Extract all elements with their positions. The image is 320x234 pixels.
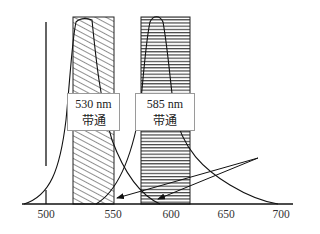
band-585-label: 585 nm 带通 bbox=[135, 93, 195, 131]
band-530-label: 530 nm 带通 bbox=[67, 93, 120, 131]
band-530-wavelength: 530 nm bbox=[68, 96, 119, 113]
tick-label-700: 700 bbox=[272, 208, 289, 220]
tick-label-600: 600 bbox=[162, 208, 179, 220]
band-530-type: 带通 bbox=[68, 113, 119, 130]
tick-label-650: 650 bbox=[217, 208, 234, 220]
band-585-wavelength: 585 nm bbox=[136, 96, 194, 113]
band-585-type: 带通 bbox=[136, 113, 194, 130]
tick-label-500: 500 bbox=[37, 208, 54, 220]
tick-label-550: 550 bbox=[104, 208, 121, 220]
